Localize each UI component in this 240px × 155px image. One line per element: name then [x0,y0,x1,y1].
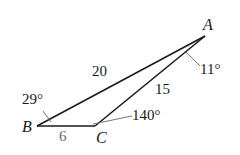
angle-label-c: 140° [132,108,161,123]
vertex-label-b: B [22,119,32,135]
angle-c-leader [93,116,132,124]
angle-a-leader [186,52,200,66]
side-label-ab: 20 [92,64,107,79]
vertex-label-a: A [203,17,213,33]
angle-label-a: 11° [200,62,220,77]
side-label-bc: 6 [59,129,67,144]
vertex-label-c: C [96,130,107,146]
side-ab [37,36,205,126]
angle-label-b: 29° [22,92,43,107]
side-label-ac: 15 [155,82,170,97]
